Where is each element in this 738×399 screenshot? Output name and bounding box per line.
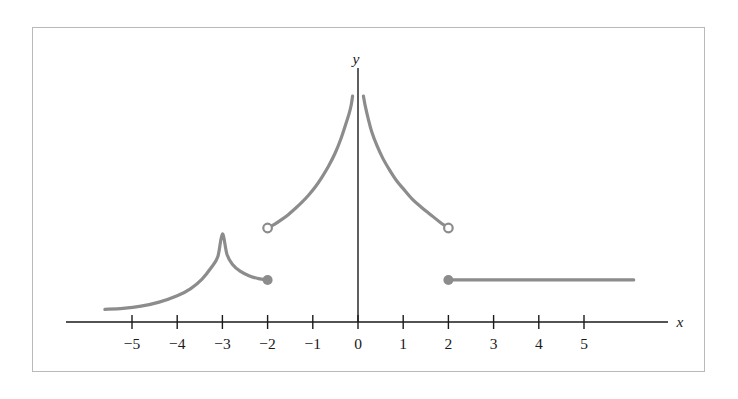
axes-group [66, 68, 668, 322]
x-tick-label-4: 4 [535, 335, 543, 352]
open-endpoint-middle-left-branch-start [263, 224, 272, 233]
curve-middle-right-branch [363, 96, 448, 228]
x-axis-tick-labels: −5−4−3−2−1012345 [124, 335, 588, 352]
open-endpoint-middle-right-branch-end [444, 224, 453, 233]
x-tick-label--4: −4 [169, 335, 186, 352]
closed-endpoint-right-horizontal-ray-start [443, 275, 453, 285]
figure-root: −5−4−3−2−1012345 x y [0, 0, 738, 399]
y-axis-label: y [351, 50, 360, 67]
x-tick-label--2: −2 [259, 335, 276, 352]
x-tick-label-0: 0 [354, 335, 362, 352]
x-tick-label-5: 5 [580, 335, 588, 352]
function-curves [105, 96, 634, 309]
x-tick-label-2: 2 [445, 335, 453, 352]
x-tick-label--1: −1 [305, 335, 322, 352]
graph-plot-area: −5−4−3−2−1012345 x y [0, 0, 738, 399]
x-axis-label: x [676, 313, 684, 330]
x-tick-label--3: −3 [214, 335, 231, 352]
x-tick-label-1: 1 [399, 335, 407, 352]
curve-middle-left-branch [268, 96, 353, 228]
curve-left-branch-cusp [105, 234, 268, 309]
x-tick-label--5: −5 [124, 335, 141, 352]
closed-endpoint-left-branch-cusp-end [263, 275, 273, 285]
x-tick-label-3: 3 [490, 335, 498, 352]
